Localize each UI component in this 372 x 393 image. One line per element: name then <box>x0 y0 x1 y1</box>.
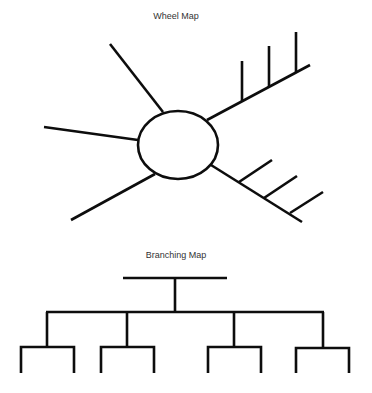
branching-map <box>21 278 349 373</box>
level-2-bracket-1 <box>21 347 74 373</box>
lower-right-spoke <box>211 165 302 222</box>
lower-left-spoke <box>71 174 155 220</box>
lower-right-spoke-group <box>211 160 323 222</box>
upper-left-spoke <box>110 44 163 112</box>
level-2-bracket-3 <box>208 347 261 373</box>
level-2-bracket-4 <box>296 348 349 373</box>
level-2-bracket-2 <box>101 347 154 373</box>
wheel-center-ellipse <box>138 111 218 179</box>
diagram-canvas <box>0 0 372 393</box>
lower-right-branch-3 <box>290 192 323 213</box>
left-spoke <box>44 127 138 140</box>
wheel-map <box>44 32 323 222</box>
branching-map-title: Branching Map <box>116 250 236 260</box>
upper-right-spoke-group <box>207 32 310 120</box>
lower-right-branch-2 <box>264 176 297 198</box>
lower-right-branch-1 <box>239 160 272 182</box>
upper-right-spoke <box>207 65 310 120</box>
